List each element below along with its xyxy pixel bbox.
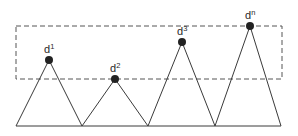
peak-triangle-dn — [215, 26, 281, 126]
peak-label-d1: d1 — [44, 42, 54, 55]
peak-labels: d1 d2 d3 dn — [44, 8, 255, 74]
peak-triangle-d3 — [148, 42, 215, 126]
peak-dot-d2 — [111, 75, 119, 83]
peak-dot-dn — [246, 22, 254, 30]
peak-triangle-d1 — [16, 60, 82, 126]
peaks-diagram: d1 d2 d3 dn — [0, 0, 298, 136]
peak-markers — [45, 22, 254, 83]
peak-label-d2: d2 — [110, 61, 120, 74]
threshold-box — [16, 26, 282, 79]
peak-triangle-d2 — [82, 79, 148, 126]
peak-dot-d1 — [45, 56, 53, 64]
peak-label-dn: dn — [245, 8, 255, 21]
peak-dot-d3 — [178, 38, 186, 46]
peak-triangles — [16, 26, 281, 126]
peak-label-d3: d3 — [177, 24, 187, 37]
